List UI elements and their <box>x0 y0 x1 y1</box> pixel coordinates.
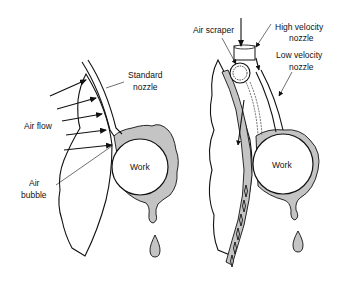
right-panel-air-scraper: Air scraper High velocity nozzle Low vel… <box>193 18 324 267</box>
coating-nozzle-diagram: Standard nozzle Air flow Air bubble Work <box>0 0 345 284</box>
label-standard-nozzle-1: Standard <box>128 70 163 80</box>
high-velocity-leader <box>256 24 271 47</box>
drip-drop-right <box>293 231 303 252</box>
label-air-bubble-1: Air <box>29 178 40 188</box>
label-high-velocity-2: nozzle <box>289 33 314 43</box>
low-velocity-air-arrow <box>256 58 259 70</box>
standard-nozzle <box>82 62 114 136</box>
label-air-bubble-2: bubble <box>21 190 47 200</box>
left-panel-standard-nozzle: Standard nozzle Air flow Air bubble Work <box>21 60 178 257</box>
label-low-velocity-1: Low velocity <box>276 50 323 60</box>
label-low-velocity-2: nozzle <box>289 62 314 72</box>
label-high-velocity-1: High velocity <box>275 22 324 32</box>
label-work-right: Work <box>272 160 292 170</box>
air-bubble-leader <box>56 146 112 185</box>
label-air-scraper: Air scraper <box>193 25 234 35</box>
air-flow-arrows <box>50 80 112 150</box>
standard-nozzle-outer <box>88 60 122 134</box>
label-standard-nozzle-2: nozzle <box>133 82 158 92</box>
standard-nozzle-leader <box>106 82 124 88</box>
drip-drop-left <box>150 235 160 257</box>
scraper-channel <box>246 82 262 135</box>
low-velocity-nozzle-outer <box>261 70 283 130</box>
label-air-flow: Air flow <box>24 121 53 131</box>
label-work-left: Work <box>130 162 150 172</box>
low-velocity-leader <box>279 72 292 96</box>
